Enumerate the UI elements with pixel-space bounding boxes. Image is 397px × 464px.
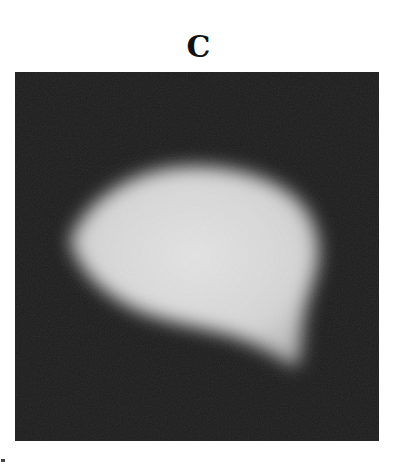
blob-shape [15,72,379,441]
scan-artifact [1,459,5,462]
panel-label: C [0,30,397,64]
micrograph-image [15,72,379,441]
